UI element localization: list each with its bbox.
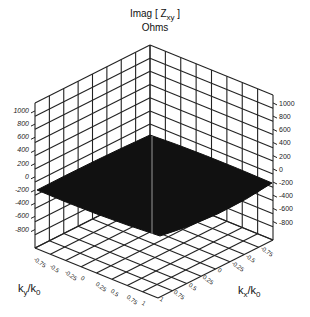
z-tick-label: -600 [0, 212, 29, 219]
z-tick-label: 200 [0, 160, 29, 167]
z-tick-label: 1000 [279, 100, 295, 107]
grid-line [273, 103, 277, 105]
z-tick-label: -800 [0, 226, 29, 233]
z-tick-label: 600 [279, 126, 291, 133]
grid-line [273, 208, 277, 210]
grid-line [273, 142, 277, 144]
grid-line [127, 228, 242, 286]
grid-line [31, 203, 35, 205]
z-tick-label: 1000 [0, 107, 29, 114]
z-tick-label: -600 [279, 205, 293, 212]
grid-line [31, 111, 35, 113]
grid-line [273, 195, 277, 197]
z-tick-label: 800 [0, 120, 29, 127]
z-tick-label: 0 [279, 166, 283, 173]
z-tick-label: 200 [279, 153, 291, 160]
grid-line [78, 226, 201, 276]
y-axis-label: ky/k0 [18, 282, 41, 297]
z-tick-label: -400 [279, 192, 293, 199]
grid-line [31, 164, 35, 166]
z-tick-label: 400 [0, 146, 29, 153]
z-tick-label: 400 [279, 139, 291, 146]
z-tick-label: 0 [0, 173, 29, 180]
grid-line [273, 116, 277, 118]
grid-line [31, 190, 35, 192]
x-axis-label: kx/k0 [238, 284, 261, 299]
grid-line [31, 216, 35, 218]
grid-line [31, 230, 35, 232]
z-tick-label: -200 [0, 186, 29, 193]
z-tick-label: 600 [0, 133, 29, 140]
grid-line [49, 241, 172, 291]
grid-line [31, 150, 35, 152]
grid-line [31, 124, 35, 126]
grid-line [273, 156, 277, 158]
grid-line [273, 222, 277, 224]
grid-line [273, 129, 277, 131]
z-tick-label: -200 [279, 179, 293, 186]
grid-line [35, 248, 158, 298]
z-tick-label: 800 [279, 113, 291, 120]
z-tick-label: -400 [0, 199, 29, 206]
z-tick-label: -800 [279, 219, 293, 226]
grid-line [31, 177, 35, 179]
grid-line [273, 169, 277, 171]
grid-line [31, 137, 35, 139]
grid-line [273, 182, 277, 184]
surface-plot [0, 0, 310, 317]
